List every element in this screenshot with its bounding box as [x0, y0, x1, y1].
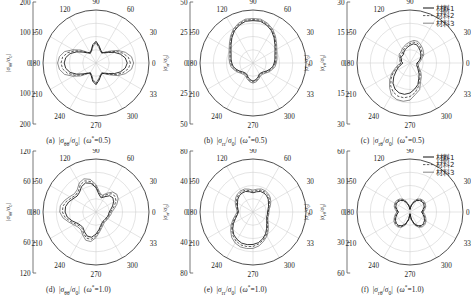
radial-tick-label: 100 — [20, 90, 31, 98]
angle-tick-120: 120 — [60, 155, 71, 163]
panel-caption-c: (c) |σrθ/σ0| (ω*=0.5) — [314, 135, 471, 147]
angle-tick-270: 270 — [248, 122, 259, 130]
y-axis-label: |σrθ/σ0| — [318, 55, 327, 72]
angle-tick-60: 60 — [127, 155, 135, 163]
polar-plot-area-c: 0306090120150180210240270300330301501530… — [314, 0, 471, 132]
angle-tick-30: 30 — [464, 29, 471, 37]
radial-tick-label: 60 — [337, 149, 345, 156]
polar-plot-area-e: 0306090120150180210240270300330804004080… — [157, 149, 314, 281]
polar-panel-e: 0306090120150180210240270300330804004080… — [157, 149, 314, 298]
angle-tick-240: 240 — [368, 262, 379, 270]
angle-tick-330: 330 — [464, 91, 471, 99]
angle-tick-120: 120 — [217, 6, 228, 14]
angle-tick-60: 60 — [284, 6, 292, 14]
angle-tick-270: 270 — [91, 122, 102, 130]
angle-tick-180: 180 — [29, 60, 40, 68]
panel-caption-b: (b) |σrr/σ0| (ω*=0.5) — [157, 135, 314, 147]
angle-tick-0: 0 — [152, 60, 156, 68]
radial-tick-label: 0 — [27, 209, 31, 217]
angle-tick-180: 180 — [186, 209, 197, 217]
radial-tick-label: 30 — [337, 239, 345, 247]
radial-tick-label: 0 — [341, 209, 345, 217]
radial-tick-label: 25 — [180, 29, 188, 37]
angle-tick-30: 30 — [464, 178, 471, 186]
angle-tick-90: 90 — [406, 0, 414, 6]
radial-tick-label: 200 — [20, 0, 31, 7]
angle-tick-0: 0 — [152, 209, 156, 217]
angle-tick-30: 30 — [307, 29, 314, 37]
angle-tick-240: 240 — [211, 262, 222, 270]
angle-tick-120: 120 — [217, 155, 228, 163]
radial-tick-label: 60 — [337, 270, 345, 278]
angle-tick-180: 180 — [186, 60, 197, 68]
y-axis-label: |σrr/σ0| — [161, 204, 170, 220]
polar-plot-area-b: 0306090120150180210240270300330502502550… — [157, 0, 314, 132]
radial-tick-label: 0 — [184, 60, 188, 68]
polar-plot-area-f: 0306090120150180210240270300330603003060… — [314, 149, 471, 281]
angle-tick-240: 240 — [211, 113, 222, 121]
radial-tick-label: 120 — [20, 270, 31, 278]
radial-tick-label: 100 — [20, 29, 31, 37]
radial-tick-label: 50 — [180, 121, 188, 129]
polar-panel-d: 0306090120150180210240270300330120600601… — [0, 149, 157, 298]
angle-tick-330: 330 — [150, 91, 157, 99]
y-axis-label: |σθθ/σ0| — [4, 54, 13, 71]
angle-tick-90: 90 — [92, 0, 100, 6]
radial-tick-label: 25 — [180, 90, 188, 98]
angle-tick-60: 60 — [284, 155, 292, 163]
angle-tick-300: 300 — [127, 262, 138, 270]
y-axis-label: |σrθ/σ0| — [318, 204, 327, 221]
angle-tick-0: 0 — [466, 60, 470, 68]
polar-panel-b: 0306090120150180210240270300330502502550… — [157, 0, 314, 149]
angle-tick-30: 30 — [150, 29, 157, 37]
angle-tick-90: 90 — [406, 149, 414, 155]
polar-curve-材料1 — [65, 183, 114, 237]
legend: 材料1材料2材料3 — [423, 4, 454, 28]
radial-tick-label: 80 — [180, 149, 188, 156]
angle-tick-300: 300 — [441, 262, 452, 270]
angle-tick-240: 240 — [54, 262, 65, 270]
radial-tick-label: 30 — [337, 178, 345, 186]
polar-panel-c: 0306090120150180210240270300330301501530… — [314, 0, 471, 149]
angle-tick-300: 300 — [127, 113, 138, 121]
angle-tick-120: 120 — [374, 6, 385, 14]
polar-panel-f: 0306090120150180210240270300330603003060… — [314, 149, 471, 298]
angle-tick-300: 300 — [441, 113, 452, 121]
radial-tick-label: 120 — [20, 149, 31, 156]
angle-tick-30: 30 — [150, 178, 157, 186]
radial-tick-label: 40 — [180, 178, 188, 186]
panel-caption-d: (d) |σθθ/σ0| (ω*=1.0) — [0, 284, 157, 296]
angle-tick-120: 120 — [374, 155, 385, 163]
angle-tick-120: 120 — [60, 6, 71, 14]
y-axis-label: |σθθ/σ0| — [4, 203, 13, 220]
polar-panel-a: 0306090120150180210240270300330200100010… — [0, 0, 157, 149]
radial-tick-label: 15 — [337, 90, 345, 98]
angle-tick-240: 240 — [54, 113, 65, 121]
y-axis-label: |σrr/σ0| — [161, 55, 170, 71]
radial-tick-label: 0 — [184, 209, 188, 217]
angle-tick-270: 270 — [405, 122, 416, 130]
legend-label-3: 材料3 — [436, 168, 454, 177]
radial-tick-label: 60 — [23, 178, 31, 186]
angle-tick-180: 180 — [343, 60, 354, 68]
angle-tick-90: 90 — [249, 0, 257, 6]
radial-tick-label: 0 — [341, 60, 345, 68]
radial-tick-label: 60 — [23, 239, 31, 247]
legend: 材料1材料2材料3 — [423, 153, 454, 177]
angle-tick-330: 330 — [307, 240, 314, 248]
angle-tick-300: 300 — [284, 113, 295, 121]
polar-plot-area-d: 0306090120150180210240270300330120600601… — [0, 149, 157, 281]
angle-tick-0: 0 — [466, 209, 470, 217]
angle-tick-60: 60 — [127, 6, 135, 14]
angle-tick-30: 30 — [307, 178, 314, 186]
panel-caption-a: (a) |σθθ/σ0| (ω*=0.5) — [0, 135, 157, 147]
radial-tick-label: 30 — [337, 0, 345, 7]
polar-plot-figure: 0306090120150180210240270300330200100010… — [0, 0, 472, 298]
radial-tick-label: 30 — [337, 121, 345, 129]
angle-tick-240: 240 — [368, 113, 379, 121]
angle-tick-270: 270 — [405, 271, 416, 279]
radial-tick-label: 15 — [337, 29, 345, 37]
radial-tick-label: 50 — [180, 0, 188, 7]
angle-tick-330: 330 — [464, 240, 471, 248]
angle-tick-180: 180 — [343, 209, 354, 217]
